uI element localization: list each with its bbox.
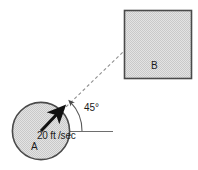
body-b-label: B [151,61,158,71]
body-a-label: A [31,142,38,152]
angle-arc [71,102,83,131]
physics-diagram-figure: 20 ft /sec 45° A B [0,0,198,170]
launch-angle-label: 45° [84,103,99,113]
velocity-magnitude-label: 20 ft /sec [37,131,76,141]
body-b-square [125,11,192,79]
square-shape [125,11,192,79]
diagram-canvas [0,0,198,170]
